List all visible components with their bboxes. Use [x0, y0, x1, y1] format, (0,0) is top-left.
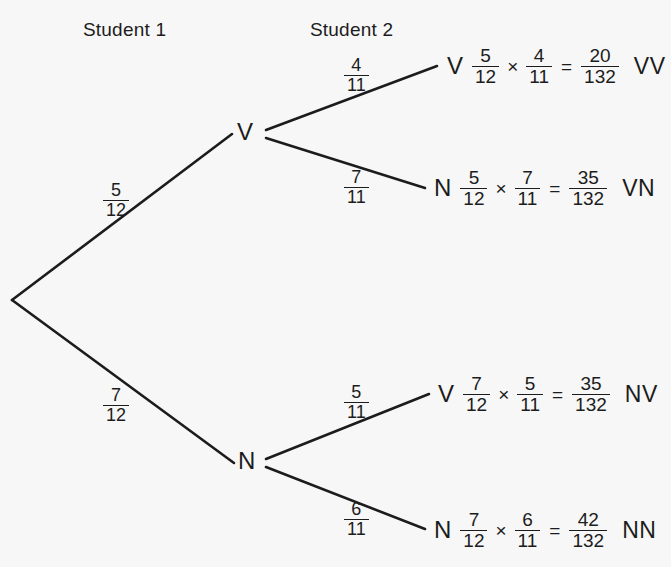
outcome-row-nv: V 7 12 × 5 11 = 35 132 NV [438, 374, 658, 415]
fraction-numerator: 42 [575, 510, 602, 530]
fraction-denominator: 12 [460, 530, 487, 551]
outcome-letter: N [434, 174, 451, 202]
branch-label-n-to-v: 5 11 [341, 383, 372, 422]
outcome-p2-fraction: 4 11 [526, 46, 552, 87]
header-student-2: Student 2 [310, 19, 393, 41]
outcome-letter: N [434, 516, 451, 544]
outcome-row-nn: N 7 12 × 6 11 = 42 132 NN [434, 510, 656, 551]
equals-symbol: = [549, 178, 560, 200]
fraction-5-12: 5 12 [103, 181, 129, 220]
edge-root-to-n [12, 300, 234, 463]
outcome-p2-fraction: 7 11 [515, 168, 541, 209]
node-v: V [237, 120, 253, 144]
outcome-row-vv: V 5 12 × 4 11 = 20 132 VV [447, 46, 666, 87]
fraction-denominator: 11 [526, 66, 552, 87]
fraction-denominator: 11 [344, 187, 369, 207]
fraction-denominator: 12 [103, 405, 129, 425]
node-n: N [238, 449, 255, 473]
outcome-pair-label: VV [634, 53, 666, 80]
fraction-numerator: 7 [519, 168, 536, 188]
outcome-result-fraction: 35 132 [572, 374, 610, 415]
fraction-numerator: 5 [466, 168, 483, 188]
outcome-letter: V [438, 380, 454, 408]
fraction-numerator: 5 [522, 374, 539, 394]
fraction-numerator: 5 [348, 383, 364, 402]
outcome-letter: V [447, 52, 463, 80]
outcome-p2-fraction: 6 11 [515, 510, 541, 551]
outcome-result-fraction: 20 132 [581, 46, 619, 87]
fraction-denominator: 132 [572, 394, 610, 415]
outcome-pair-label: NV [625, 381, 658, 408]
branch-label-n-to-n: 6 11 [341, 500, 372, 539]
outcome-pair-label: VN [622, 175, 655, 202]
multiply-symbol: × [507, 56, 518, 78]
fraction-denominator: 132 [569, 530, 607, 551]
outcome-result-fraction: 35 132 [569, 168, 607, 209]
probability-tree-diagram: Student 1 Student 2 V N 5 12 7 12 4 11 7… [0, 0, 671, 567]
branch-label-v-to-v: 4 11 [341, 56, 372, 95]
multiply-symbol: × [495, 178, 506, 200]
fraction-denominator: 11 [515, 188, 541, 209]
outcome-p1-fraction: 7 12 [460, 510, 487, 551]
fraction-denominator: 11 [344, 75, 369, 95]
fraction-numerator: 6 [348, 500, 364, 519]
fraction-denominator: 11 [515, 530, 541, 551]
fraction-denominator: 12 [460, 188, 487, 209]
fraction-numerator: 4 [348, 56, 364, 75]
fraction-6-11: 6 11 [344, 500, 369, 539]
outcome-p1-fraction: 5 12 [472, 46, 499, 87]
fraction-denominator: 11 [517, 394, 543, 415]
outcome-result-fraction: 42 132 [569, 510, 607, 551]
multiply-symbol: × [498, 384, 509, 406]
fraction-denominator: 12 [103, 200, 129, 220]
fraction-denominator: 11 [344, 402, 369, 422]
fraction-denominator: 132 [581, 66, 619, 87]
fraction-numerator: 5 [108, 181, 124, 200]
equals-symbol: = [561, 56, 572, 78]
outcome-row-vn: N 5 12 × 7 11 = 35 132 VN [434, 168, 655, 209]
fraction-denominator: 132 [569, 188, 607, 209]
fraction-denominator: 12 [472, 66, 499, 87]
fraction-numerator: 7 [108, 386, 124, 405]
header-student-1: Student 1 [83, 19, 166, 41]
fraction-numerator: 6 [519, 510, 536, 530]
branch-label-root-to-v: 5 12 [100, 181, 132, 220]
multiply-symbol: × [495, 520, 506, 542]
branch-label-root-to-n: 7 12 [100, 386, 132, 425]
fraction-7-12: 7 12 [103, 386, 129, 425]
fraction-denominator: 12 [463, 394, 490, 415]
equals-symbol: = [552, 384, 563, 406]
fraction-numerator: 35 [575, 168, 602, 188]
fraction-numerator: 7 [348, 168, 364, 187]
outcome-p2-fraction: 5 11 [517, 374, 543, 415]
fraction-numerator: 5 [477, 46, 494, 66]
outcome-p1-fraction: 7 12 [463, 374, 490, 415]
fraction-7-11: 7 11 [344, 168, 369, 207]
outcome-p1-fraction: 5 12 [460, 168, 487, 209]
fraction-numerator: 7 [466, 510, 483, 530]
fraction-5-11: 5 11 [344, 383, 369, 422]
fraction-numerator: 7 [468, 374, 485, 394]
equals-symbol: = [549, 520, 560, 542]
fraction-numerator: 4 [531, 46, 548, 66]
outcome-pair-label: NN [622, 517, 656, 544]
fraction-4-11: 4 11 [344, 56, 369, 95]
fraction-numerator: 20 [586, 46, 613, 66]
fraction-numerator: 35 [577, 374, 604, 394]
fraction-denominator: 11 [344, 519, 369, 539]
branch-label-v-to-n: 7 11 [341, 168, 372, 207]
